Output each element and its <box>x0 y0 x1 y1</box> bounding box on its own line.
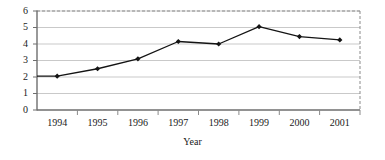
y-tick-label-2: 2 <box>14 72 28 82</box>
x-axis-title: Year <box>0 136 385 147</box>
data-series-line <box>37 27 340 77</box>
y-tick-label-6: 6 <box>14 6 28 16</box>
data-point-markers <box>55 24 343 79</box>
y-tick-label-4: 4 <box>14 39 28 49</box>
y-tick-label-1: 1 <box>14 88 28 98</box>
data-point-1995 <box>95 66 100 71</box>
data-point-1994 <box>55 74 60 79</box>
x-tick-label-1997: 1997 <box>158 118 198 128</box>
line-chart: 6 5 4 3 2 1 0 1994 1995 1996 1997 1998 1… <box>0 0 385 160</box>
data-point-1998 <box>216 41 221 46</box>
x-tick-label-1994: 1994 <box>37 118 77 128</box>
x-tick-label-2001: 2001 <box>320 118 360 128</box>
y-tick-label-5: 5 <box>14 22 28 32</box>
y-tick-label-0: 0 <box>14 105 28 115</box>
data-point-2001 <box>337 37 342 42</box>
x-tick-label-1995: 1995 <box>78 118 118 128</box>
x-axis-ticks <box>77 110 360 115</box>
y-tick-label-3: 3 <box>14 55 28 65</box>
x-tick-label-1998: 1998 <box>199 118 239 128</box>
x-tick-label-1999: 1999 <box>239 118 279 128</box>
x-tick-label-2000: 2000 <box>279 118 319 128</box>
data-point-1997 <box>176 39 181 44</box>
gridlines <box>37 11 360 94</box>
x-tick-label-1996: 1996 <box>118 118 158 128</box>
data-point-2000 <box>297 34 302 39</box>
data-point-1999 <box>256 24 261 29</box>
